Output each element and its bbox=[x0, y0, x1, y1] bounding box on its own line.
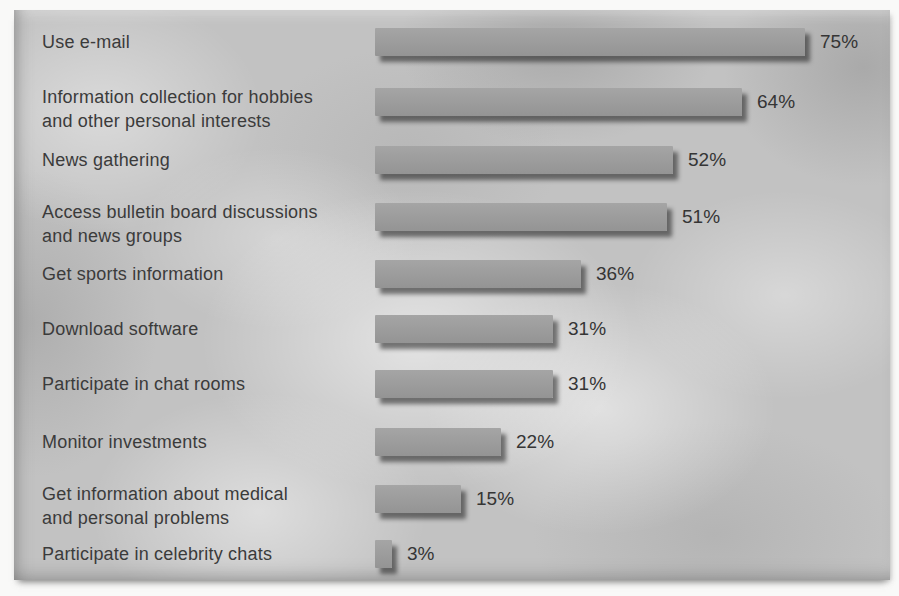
bar-label: News gathering bbox=[42, 148, 377, 172]
bar-value-label: 64% bbox=[757, 90, 795, 114]
bar bbox=[375, 88, 742, 116]
bar bbox=[375, 428, 501, 456]
bar-value-label: 75% bbox=[820, 30, 858, 54]
bar bbox=[375, 146, 673, 174]
bar bbox=[375, 370, 553, 398]
bar-value-label: 3% bbox=[407, 542, 434, 566]
bar-value-label: 31% bbox=[568, 317, 606, 341]
bar-label: Participate in celebrity chats bbox=[42, 542, 377, 566]
bar-value-label: 15% bbox=[476, 487, 514, 511]
bar-value-label: 36% bbox=[596, 262, 634, 286]
bar-label: Participate in chat rooms bbox=[42, 372, 377, 396]
bar bbox=[375, 28, 805, 56]
bar-value-label: 51% bbox=[682, 205, 720, 229]
bar-chart-panel: Use e-mail 75% Information collection fo… bbox=[14, 10, 890, 580]
bar-label: Access bulletin board discussions and ne… bbox=[42, 200, 377, 248]
bar bbox=[375, 485, 461, 513]
bar bbox=[375, 260, 581, 288]
bar-label: Get information about medical and person… bbox=[42, 482, 377, 530]
bar-label: Information collection for hobbies and o… bbox=[42, 85, 377, 133]
bar bbox=[375, 540, 392, 568]
bar-label: Get sports information bbox=[42, 262, 377, 286]
bar-value-label: 52% bbox=[688, 148, 726, 172]
bar-label: Monitor investments bbox=[42, 430, 377, 454]
bar-value-label: 22% bbox=[516, 430, 554, 454]
bar-label: Download software bbox=[42, 317, 377, 341]
bar-value-label: 31% bbox=[568, 372, 606, 396]
bar bbox=[375, 315, 553, 343]
page: Use e-mail 75% Information collection fo… bbox=[0, 0, 899, 596]
bar-label: Use e-mail bbox=[42, 30, 377, 54]
bar bbox=[375, 203, 667, 231]
